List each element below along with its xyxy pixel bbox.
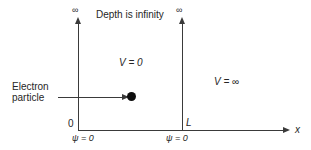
boundary-condition-right-label: ψ = 0 — [166, 134, 188, 143]
boundary-condition-left-label: ψ = 0 — [72, 134, 94, 143]
electron-label-line-1: Electron — [12, 82, 49, 92]
electron-pointer-line — [58, 97, 123, 98]
left-wall-arrowhead-icon — [75, 17, 81, 24]
potential-well-diagram: ∞ ∞ x Depth is infinity V = 0 V = ∞ 0 L … — [0, 0, 311, 150]
well-width-label: L — [186, 118, 192, 128]
potential-outside-label: V = ∞ — [214, 77, 239, 87]
potential-inside-label: V = 0 — [119, 58, 143, 68]
right-well-wall — [182, 24, 183, 131]
origin-label: 0 — [68, 119, 74, 129]
infinity-symbol-left: ∞ — [72, 6, 78, 15]
x-axis-arrowhead-icon — [283, 127, 290, 133]
left-well-wall — [78, 24, 79, 131]
x-axis-line — [78, 130, 283, 131]
infinity-symbol-right: ∞ — [176, 6, 182, 15]
electron-particle-dot — [127, 92, 136, 101]
right-wall-arrowhead-icon — [179, 17, 185, 24]
x-axis-label: x — [295, 125, 300, 135]
depth-is-infinity-label: Depth is infinity — [96, 10, 164, 20]
electron-label-line-2: particle — [12, 93, 44, 103]
